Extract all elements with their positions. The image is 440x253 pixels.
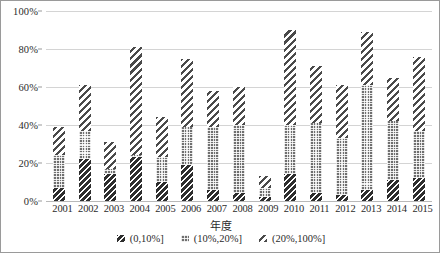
bar-segment[interactable] xyxy=(79,131,91,160)
bar-group[interactable] xyxy=(53,11,65,201)
x-axis-tick-label: 2001 xyxy=(53,203,65,214)
x-axis-tick-label: 2005 xyxy=(156,203,168,214)
x-axis-tick-label: 2004 xyxy=(130,203,142,214)
y-axis-tick-label: 60% xyxy=(18,82,38,93)
bar-segment[interactable] xyxy=(233,125,245,193)
stacked-bar-chart: 0%20%40%60%80%100% 200120022003200420052… xyxy=(0,0,440,253)
bar-segment[interactable] xyxy=(130,47,142,155)
bar-segment[interactable] xyxy=(284,174,296,201)
plot-area xyxy=(46,11,432,201)
bar-group[interactable] xyxy=(79,11,91,201)
bar-segment[interactable] xyxy=(207,91,219,127)
y-axis-tick-mark xyxy=(38,11,42,12)
y-axis-tick-mark xyxy=(38,163,42,164)
x-axis-tick-label: 2011 xyxy=(310,203,322,214)
x-axis-tick-label: 2010 xyxy=(284,203,296,214)
bar-segment[interactable] xyxy=(361,190,373,201)
bar-segment[interactable] xyxy=(53,155,65,187)
bar-segment[interactable] xyxy=(104,142,116,169)
legend-item[interactable]: (20%,100%] xyxy=(259,233,325,244)
legend-label: (20%,100%] xyxy=(272,233,325,244)
bars-layer xyxy=(46,11,432,201)
x-axis-tick-label: 2012 xyxy=(336,203,348,214)
x-axis-tick-label: 2003 xyxy=(104,203,116,214)
bar-segment[interactable] xyxy=(79,159,91,201)
y-axis-tick-label: 0% xyxy=(24,196,38,207)
x-axis-tick-label: 2006 xyxy=(181,203,193,214)
bar-segment[interactable] xyxy=(181,165,193,201)
legend-label: (10%,20%] xyxy=(194,233,242,244)
y-axis-tick-mark xyxy=(38,49,42,50)
bar-group[interactable] xyxy=(259,11,271,201)
bar-segment[interactable] xyxy=(259,188,271,198)
bar-segment[interactable] xyxy=(259,176,271,187)
bar-segment[interactable] xyxy=(53,188,65,201)
bar-group[interactable] xyxy=(130,11,142,201)
bar-group[interactable] xyxy=(207,11,219,201)
bar-segment[interactable] xyxy=(387,121,399,180)
bar-segment[interactable] xyxy=(53,127,65,156)
bar-segment[interactable] xyxy=(310,66,322,123)
bar-segment[interactable] xyxy=(361,32,373,85)
bar-group[interactable] xyxy=(156,11,168,201)
y-axis-tick-mark xyxy=(38,201,42,202)
bar-segment[interactable] xyxy=(310,123,322,193)
bar-segment[interactable] xyxy=(233,193,245,201)
bar-segment[interactable] xyxy=(336,195,348,201)
bar-group[interactable] xyxy=(104,11,116,201)
x-axis-tick-label: 2013 xyxy=(361,203,373,214)
bar-group[interactable] xyxy=(233,11,245,201)
bar-group[interactable] xyxy=(413,11,425,201)
y-axis-tick-mark xyxy=(38,87,42,88)
bar-group[interactable] xyxy=(336,11,348,201)
bar-segment[interactable] xyxy=(156,117,168,157)
bar-segment[interactable] xyxy=(336,138,348,195)
bar-segment[interactable] xyxy=(284,125,296,174)
bar-group[interactable] xyxy=(284,11,296,201)
bar-segment[interactable] xyxy=(156,157,168,182)
bar-segment[interactable] xyxy=(181,59,193,127)
x-axis-title: 年度 xyxy=(1,217,440,233)
chart-legend: (0,10%](10%,20%](20%,100%] xyxy=(1,233,440,244)
x-axis-tick-label: 2007 xyxy=(207,203,219,214)
legend-item[interactable]: (10%,20%] xyxy=(181,233,242,244)
y-axis-tick-label: 100% xyxy=(13,6,38,17)
bar-segment[interactable] xyxy=(413,178,425,201)
bar-segment[interactable] xyxy=(413,57,425,131)
x-axis-tick-label: 2015 xyxy=(413,203,425,214)
bar-segment[interactable] xyxy=(336,85,348,138)
bar-segment[interactable] xyxy=(207,127,219,190)
bar-segment[interactable] xyxy=(310,193,322,201)
bar-group[interactable] xyxy=(310,11,322,201)
bar-segment[interactable] xyxy=(79,85,91,131)
bar-segment[interactable] xyxy=(413,131,425,179)
bar-segment[interactable] xyxy=(207,190,219,201)
bar-segment[interactable] xyxy=(387,78,399,122)
y-axis-tick-label: 20% xyxy=(18,158,38,169)
legend-label: (0,10%] xyxy=(130,233,164,244)
y-axis: 0%20%40%60%80%100% xyxy=(1,11,42,201)
bar-segment[interactable] xyxy=(387,180,399,201)
y-axis-tick-mark xyxy=(38,125,42,126)
bar-segment[interactable] xyxy=(156,182,168,201)
bar-segment[interactable] xyxy=(181,127,193,165)
bar-segment[interactable] xyxy=(104,174,116,201)
y-axis-tick-label: 80% xyxy=(18,44,38,55)
y-axis-tick-label: 40% xyxy=(18,120,38,131)
legend-swatch xyxy=(259,235,267,242)
x-axis-tick-label: 2014 xyxy=(387,203,399,214)
legend-swatch xyxy=(181,235,189,242)
legend-swatch xyxy=(117,235,125,242)
bar-segment[interactable] xyxy=(361,85,373,190)
bar-group[interactable] xyxy=(181,11,193,201)
bar-segment[interactable] xyxy=(233,87,245,125)
x-axis-tick-label: 2009 xyxy=(259,203,271,214)
bar-segment[interactable] xyxy=(259,197,271,201)
bar-segment[interactable] xyxy=(130,157,142,201)
bar-group[interactable] xyxy=(361,11,373,201)
x-axis-tick-label: 2002 xyxy=(79,203,91,214)
legend-item[interactable]: (0,10%] xyxy=(117,233,164,244)
gridline xyxy=(46,201,432,202)
bar-group[interactable] xyxy=(387,11,399,201)
bar-segment[interactable] xyxy=(284,30,296,125)
